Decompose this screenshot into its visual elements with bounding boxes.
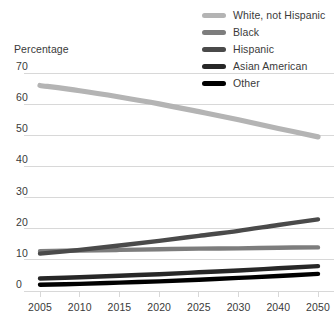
legend-item[interactable]: Other [202, 76, 325, 91]
legend-item-label: Black [233, 25, 259, 40]
x-axis-tick-label: 2040 [258, 301, 298, 313]
legend-item[interactable]: Black [202, 25, 325, 40]
population-projection-line-chart: Percentage 010203040506070 2005201020152… [0, 0, 336, 320]
legend-item[interactable]: Hispanic [202, 42, 325, 57]
series-lines [40, 85, 318, 284]
x-axis-tick-label: 2020 [139, 301, 179, 313]
legend-color-swatch-icon [202, 13, 226, 18]
legend-item[interactable]: Asian American [202, 59, 325, 74]
legend-color-swatch-icon [202, 47, 226, 52]
x-axis-tick-label: 2025 [179, 301, 219, 313]
y-axis-tick-label: 30 [16, 185, 28, 197]
y-axis-tick-label: 0 [16, 278, 22, 290]
legend-color-swatch-icon [202, 64, 226, 69]
y-axis-tick-label: 50 [16, 122, 28, 134]
legend-item-label: Other [233, 76, 260, 91]
legend-color-swatch-icon [202, 30, 226, 35]
y-axis-tick-label: 20 [16, 216, 28, 228]
x-axis-tick-label: 2015 [99, 301, 139, 313]
y-axis-tick-label: 40 [16, 153, 28, 165]
y-axis-tick-label: 60 [16, 91, 28, 103]
y-axis-tick-label: 70 [16, 60, 28, 72]
x-axis-tick-label: 2030 [219, 301, 259, 313]
series-line [40, 85, 318, 136]
legend-color-swatch-icon [202, 81, 226, 86]
x-axis-ticks [40, 292, 318, 297]
legend-item-label: Asian American [233, 59, 307, 74]
x-axis-tick-label: 2050 [298, 301, 336, 313]
legend-item-label: Hispanic [233, 42, 274, 57]
y-axis-title: Percentage [14, 43, 69, 55]
y-axis-tick-label: 10 [16, 247, 28, 259]
legend-item-label: White, not Hispanic [233, 8, 325, 23]
x-axis-tick-label: 2010 [60, 301, 100, 313]
chart-legend: White, not HispanicBlackHispanicAsian Am… [202, 8, 325, 91]
x-axis-tick-label: 2005 [20, 301, 60, 313]
legend-item[interactable]: White, not Hispanic [202, 8, 325, 23]
